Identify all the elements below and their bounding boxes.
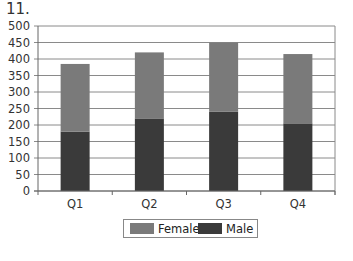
y-tick-label: 200 <box>0 119 30 131</box>
chart-legend: Female Male <box>123 219 258 238</box>
y-tick-label: 100 <box>0 152 30 164</box>
bar-male-q3 <box>209 112 238 191</box>
bar-male-q2 <box>135 118 164 191</box>
y-tick-label: 0 <box>0 185 30 197</box>
x-tick-label: Q4 <box>278 197 318 211</box>
y-tick-label: 350 <box>0 70 30 82</box>
y-tick-label: 300 <box>0 86 30 98</box>
bar-male-q1 <box>61 132 90 191</box>
y-tick-label: 450 <box>0 37 30 49</box>
bar-female-q2 <box>135 52 164 118</box>
legend-label-male: Male <box>226 222 253 236</box>
legend-item-female: Female <box>130 223 200 235</box>
female-swatch <box>130 223 154 234</box>
y-tick-label: 50 <box>0 169 30 181</box>
x-tick-label: Q2 <box>129 197 169 211</box>
bar-female-q4 <box>283 54 312 123</box>
bar-male-q4 <box>283 123 312 191</box>
legend-label-female: Female <box>158 222 200 236</box>
male-swatch <box>198 223 222 234</box>
bar-female-q3 <box>209 43 238 112</box>
x-tick-label: Q1 <box>55 197 95 211</box>
y-tick-label: 250 <box>0 103 30 115</box>
y-tick-label: 400 <box>0 53 30 65</box>
x-tick-label: Q3 <box>204 197 244 211</box>
bar-female-q1 <box>61 64 90 132</box>
y-tick-label: 500 <box>0 20 30 32</box>
legend-item-male: Male <box>198 223 253 235</box>
y-tick-label: 150 <box>0 136 30 148</box>
